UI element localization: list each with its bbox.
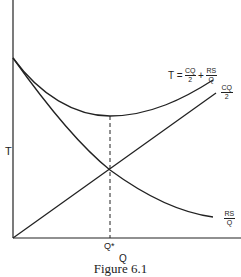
holding-cost-label: CQ 2 (221, 84, 233, 100)
total-lhs: T = (168, 70, 183, 81)
holding-cost-line (13, 93, 216, 238)
y-axis-label: T (5, 146, 12, 156)
q-star-label: Q* (104, 241, 115, 251)
total-plus: + (198, 70, 204, 81)
total-term2-fraction: RS Q (206, 67, 217, 83)
total-term1-fraction: CQ 2 (185, 67, 197, 83)
ordering-cost-label: RS Q (224, 210, 235, 226)
total-cost-label: T = CQ 2 + RS Q (168, 67, 217, 83)
figure-caption: Figure 6.1 (0, 261, 241, 277)
